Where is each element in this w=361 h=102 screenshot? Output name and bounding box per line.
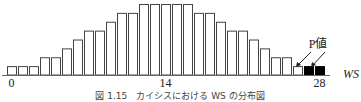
bar-ws-16 (184, 5, 193, 76)
bar-ws-24 (272, 58, 281, 75)
x-tick-label-0: 0 (9, 76, 15, 90)
bar-ws-17 (195, 13, 204, 75)
x-tick-label-14: 14 (160, 76, 172, 90)
bar-ws-13 (151, 5, 160, 76)
bar-ws-5 (63, 49, 72, 75)
bar-ws-2 (30, 67, 39, 75)
bar-ws-15 (173, 5, 182, 76)
bar-ws-25 (283, 58, 292, 75)
x-tick-labels: 01428 (9, 76, 326, 90)
bar-ws-22 (250, 40, 259, 75)
bar-ws-12 (140, 5, 149, 76)
bar-highlighted-ws-27 (305, 67, 314, 75)
bar-ws-6 (74, 40, 83, 75)
x-tick-label-28: 28 (314, 76, 326, 90)
bar-ws-23 (261, 49, 270, 75)
bar-ws-1 (19, 67, 28, 75)
p-value-annotation: P値 (309, 36, 328, 51)
bar-ws-14 (162, 5, 171, 76)
bar-ws-10 (118, 13, 127, 75)
bar-ws-26 (294, 67, 303, 75)
arrow-to-bar-28 (313, 52, 325, 65)
p-value-arrows (296, 52, 325, 67)
arrow-to-bar-27 (298, 52, 311, 65)
bar-ws-4 (52, 58, 61, 75)
ws-distribution-chart: 01428 WS P値 図 1.15 カイシスにおける WS の分布図 (0, 0, 361, 102)
bar-ws-19 (217, 22, 226, 75)
bar-ws-8 (96, 31, 105, 75)
bar-ws-3 (41, 58, 50, 75)
bar-ws-0 (8, 67, 17, 75)
bar-ws-18 (206, 13, 215, 75)
bar-ws-20 (228, 31, 237, 75)
bar-ws-11 (129, 13, 138, 75)
bar-highlighted-ws-28 (316, 67, 325, 75)
bar-ws-21 (239, 31, 248, 75)
bar-ws-9 (107, 22, 116, 75)
x-axis-label: WS (343, 67, 359, 81)
bars-group (8, 5, 325, 76)
bar-ws-7 (85, 31, 94, 75)
figure-caption: 図 1.15 カイシスにおける WS の分布図 (95, 90, 264, 101)
